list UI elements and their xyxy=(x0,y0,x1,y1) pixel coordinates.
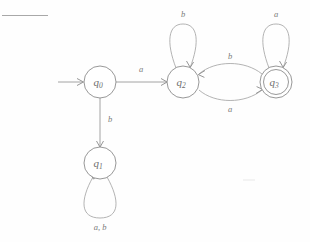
self-loop-q2: b xyxy=(170,9,196,68)
edge-q3-to-q2: b xyxy=(198,51,262,77)
self-loop-q1: a, b xyxy=(84,173,116,232)
state-q2[interactable]: q2 xyxy=(167,66,199,98)
edge-label-q0-q2: a xyxy=(139,64,143,74)
automaton-diagram: a b a, b b a b xyxy=(0,0,310,242)
edge-label-loop-q1: a, b xyxy=(94,222,107,232)
edge-label-q2-q3: a xyxy=(228,104,232,114)
edge-q0-to-q1: b xyxy=(97,98,113,147)
start-arrow xyxy=(58,79,84,86)
state-q1[interactable]: q1 xyxy=(84,147,116,179)
edge-label-loop-q3: a xyxy=(274,9,278,19)
self-loop-q3: a xyxy=(263,9,289,68)
edge-q2-to-q3: a xyxy=(199,87,263,114)
edge-q0-to-q2: a xyxy=(116,64,167,86)
state-q3[interactable]: q3 xyxy=(260,66,292,98)
edge-label-q0-q1: b xyxy=(108,114,112,124)
edge-label-loop-q2: b xyxy=(181,9,185,19)
diagram-canvas: a b a, b b a b xyxy=(0,0,310,242)
state-q0[interactable]: q0 xyxy=(84,66,116,98)
edge-label-q3-q2: b xyxy=(228,51,232,61)
